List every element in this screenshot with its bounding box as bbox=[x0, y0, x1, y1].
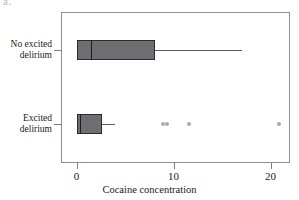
boxplot-median-line bbox=[80, 114, 81, 134]
y-axis-category-label-line: Excited bbox=[0, 113, 52, 124]
x-axis-tick-label: 20 bbox=[265, 170, 276, 182]
y-axis-category-label-line: delirium bbox=[0, 124, 52, 135]
x-axis-tick bbox=[271, 163, 272, 169]
boxplot-figure: a. 01020No exciteddeliriumExciteddeliriu… bbox=[0, 0, 299, 200]
y-axis-category-label-line: delirium bbox=[0, 50, 52, 61]
boxplot-outlier-point bbox=[277, 122, 281, 126]
boxplot-outlier-point bbox=[187, 122, 191, 126]
y-axis-tick bbox=[54, 124, 62, 125]
x-axis-tick bbox=[77, 163, 78, 169]
boxplot-outlier-point bbox=[165, 122, 169, 126]
x-axis-tick bbox=[174, 163, 175, 169]
x-axis-tick-label: 0 bbox=[74, 170, 80, 182]
x-axis-title: Cocaine concentration bbox=[0, 184, 299, 195]
y-axis-tick bbox=[54, 50, 62, 51]
boxplot-box bbox=[77, 40, 156, 60]
plot-frame bbox=[61, 12, 290, 163]
boxplot-median-line bbox=[91, 40, 92, 60]
y-axis-category-label-line: No excited bbox=[0, 39, 52, 50]
x-axis-tick-label: 10 bbox=[168, 170, 179, 182]
y-axis-category-label: No exciteddelirium bbox=[0, 39, 52, 61]
y-axis-category-label: Exciteddelirium bbox=[0, 113, 52, 135]
panel-label: a. bbox=[3, 0, 12, 7]
